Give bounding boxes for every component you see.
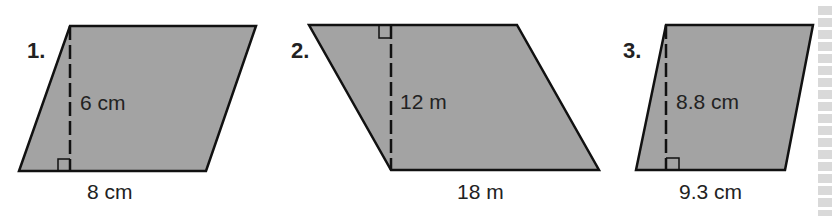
parallelogram-2 [309,25,599,170]
height-label-2: 12 m [400,91,447,112]
parallelogram-1 [19,26,256,171]
problem-number-2: 2. [291,40,309,62]
base-label-1: 8 cm [87,181,133,202]
page-edge-pattern [818,6,832,216]
problem-number-1: 1. [27,40,45,62]
parallelogram-figure: 1. 6 cm 8 cm 2. 12 m 18 m 3. 8.8 cm 9.3 … [0,0,832,220]
height-label-3: 8.8 cm [676,91,739,112]
problem-number-3: 3. [623,40,641,62]
base-label-2: 18 m [457,181,504,202]
base-label-3: 9.3 cm [679,181,742,202]
height-label-1: 6 cm [80,92,126,113]
